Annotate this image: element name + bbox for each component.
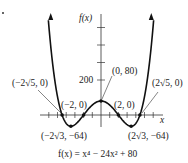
point-label-neg-2: (−2, 0) bbox=[61, 100, 87, 111]
leader-lines bbox=[38, 76, 158, 113]
point-label-min-right: (2√3, −64) bbox=[128, 131, 169, 142]
point-label-neg-2root5: (−2√5, 0) bbox=[12, 78, 48, 89]
point-marker bbox=[129, 124, 133, 128]
x-axis-label: x bbox=[159, 115, 165, 125]
point-marker bbox=[69, 124, 73, 128]
point-marker bbox=[138, 113, 142, 117]
point-marker bbox=[117, 113, 121, 117]
point-marker bbox=[99, 99, 103, 103]
point-marker bbox=[82, 113, 86, 117]
point-label-2root5: (2√5, 0) bbox=[152, 78, 183, 89]
equation-label: f(x) = x⁴ − 24x² + 80 bbox=[58, 149, 137, 160]
curve-arrow-icon bbox=[48, 13, 53, 20]
point-label-min-left: (−2√3, −64) bbox=[41, 131, 87, 142]
point-label-2: (2, 0) bbox=[114, 100, 135, 111]
curve-arrow-icon bbox=[149, 13, 154, 20]
y-tick-label-200: 200 bbox=[79, 75, 94, 85]
point-label-0-80: (0, 80) bbox=[112, 66, 137, 77]
function-graph: f(x) x 200 (−2√5, 0) (−2, 0) (0, 80) (2,… bbox=[0, 0, 188, 163]
point-marker bbox=[60, 113, 64, 117]
y-axis-label: f(x) bbox=[79, 13, 92, 24]
